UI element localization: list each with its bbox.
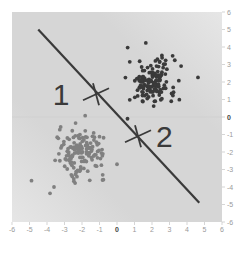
- data-point: [99, 163, 103, 167]
- data-point: [89, 141, 93, 145]
- data-point: [63, 157, 67, 161]
- x-tick-label: 0: [115, 226, 119, 233]
- data-point: [48, 191, 52, 195]
- data-point: [149, 85, 153, 89]
- data-point: [102, 178, 106, 182]
- data-point: [153, 99, 157, 103]
- data-point: [141, 100, 145, 104]
- x-tick-label: 2: [150, 226, 154, 233]
- x-tick-label: 1: [133, 226, 137, 233]
- scatter-chart: 12-6-5-4-3-2-101234566543210-1-2-3-4-5-6: [0, 0, 249, 261]
- data-point: [177, 79, 181, 83]
- data-point: [147, 71, 151, 75]
- data-point: [177, 98, 181, 102]
- data-point: [83, 159, 87, 163]
- data-point: [141, 69, 145, 73]
- data-point: [146, 66, 150, 70]
- data-point: [93, 164, 97, 168]
- data-point: [90, 158, 94, 162]
- data-point: [171, 86, 175, 90]
- data-point: [135, 77, 139, 81]
- data-point: [141, 94, 145, 98]
- data-point: [100, 148, 104, 152]
- data-point: [150, 90, 154, 94]
- data-point: [152, 104, 156, 108]
- data-point: [162, 62, 166, 66]
- data-point: [30, 179, 34, 183]
- data-point: [69, 161, 73, 165]
- data-point: [99, 157, 103, 161]
- data-point: [160, 56, 164, 60]
- data-point: [172, 90, 176, 94]
- data-point: [67, 152, 71, 156]
- data-point: [74, 146, 78, 150]
- data-point: [138, 59, 142, 63]
- data-point: [171, 54, 175, 58]
- data-point: [146, 81, 150, 85]
- data-point: [136, 88, 140, 92]
- y-tick-label: 1: [227, 96, 231, 103]
- x-tick-label: 4: [185, 226, 189, 233]
- x-tick-label: -6: [9, 226, 15, 233]
- x-tick-label: -3: [61, 226, 67, 233]
- data-point: [72, 166, 76, 170]
- data-point: [128, 98, 132, 102]
- data-point: [160, 70, 164, 74]
- data-point: [83, 129, 87, 133]
- data-point: [151, 67, 155, 71]
- data-point: [93, 135, 97, 139]
- data-point: [89, 149, 93, 153]
- y-tick-label: 4: [227, 44, 231, 51]
- data-point: [84, 144, 88, 148]
- data-point: [79, 165, 83, 169]
- data-point: [73, 181, 77, 185]
- data-point-outlier: [169, 99, 173, 103]
- data-point: [73, 151, 77, 155]
- data-point: [81, 136, 85, 140]
- data-point: [72, 161, 76, 165]
- data-point: [147, 78, 151, 82]
- data-point: [80, 155, 84, 159]
- data-point: [141, 84, 145, 88]
- y-tick-label: 3: [227, 61, 231, 68]
- data-point: [85, 135, 89, 139]
- data-point: [83, 114, 87, 118]
- data-point: [161, 66, 165, 70]
- data-point: [67, 137, 71, 141]
- data-point: [101, 152, 105, 156]
- data-point: [102, 136, 106, 140]
- data-point: [88, 178, 92, 182]
- x-tick-label: -1: [96, 226, 102, 233]
- data-point: [160, 97, 164, 101]
- data-point: [86, 169, 90, 173]
- data-point: [171, 94, 175, 98]
- y-tick-label: -2: [227, 149, 233, 156]
- data-point: [74, 170, 78, 174]
- data-point: [58, 128, 62, 132]
- data-point: [141, 75, 145, 79]
- data-point: [126, 46, 130, 50]
- y-tick-label: -5: [227, 201, 233, 208]
- data-point: [60, 144, 64, 148]
- data-point: [85, 151, 89, 155]
- data-point: [62, 140, 66, 144]
- x-tick-label: 3: [168, 226, 172, 233]
- data-point: [173, 58, 177, 62]
- y-tick-label: 6: [227, 9, 231, 16]
- data-point: [58, 159, 62, 163]
- data-point: [93, 153, 97, 157]
- data-point: [72, 177, 76, 181]
- y-tick-label: 0: [227, 114, 231, 121]
- data-point-outlier: [115, 162, 119, 166]
- data-point: [57, 152, 61, 156]
- x-tick-label: -4: [44, 226, 50, 233]
- data-point: [149, 64, 153, 68]
- data-point: [65, 167, 69, 171]
- y-tick-label: -4: [227, 184, 233, 191]
- data-point: [80, 139, 84, 143]
- data-point: [153, 59, 157, 63]
- data-point: [164, 80, 168, 84]
- data-point-outlier: [52, 185, 56, 189]
- data-point: [151, 75, 155, 79]
- data-point: [140, 78, 144, 82]
